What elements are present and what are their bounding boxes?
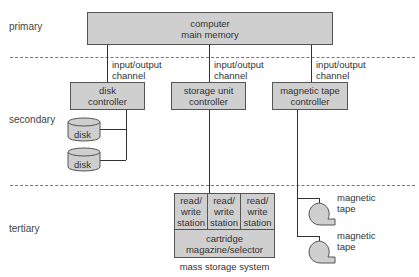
disk-label-2: disk	[74, 159, 91, 170]
cartridge-magazine-selector: cartridge magazine/selector	[174, 229, 275, 258]
disk-label-1: disk	[74, 129, 91, 140]
read-write-station-1: read/ write station	[174, 193, 208, 230]
read-write-station-3: read/ write station	[240, 193, 275, 230]
mass-storage-caption: mass storage system	[174, 261, 275, 272]
tape-label-2: magnetic tape	[337, 230, 376, 252]
tape-label-1: magnetic tape	[337, 192, 376, 214]
magnetic-tape-icon	[309, 203, 335, 225]
read-write-station-2: read/ write station	[207, 193, 241, 230]
magnetic-tape-icon	[309, 241, 335, 263]
